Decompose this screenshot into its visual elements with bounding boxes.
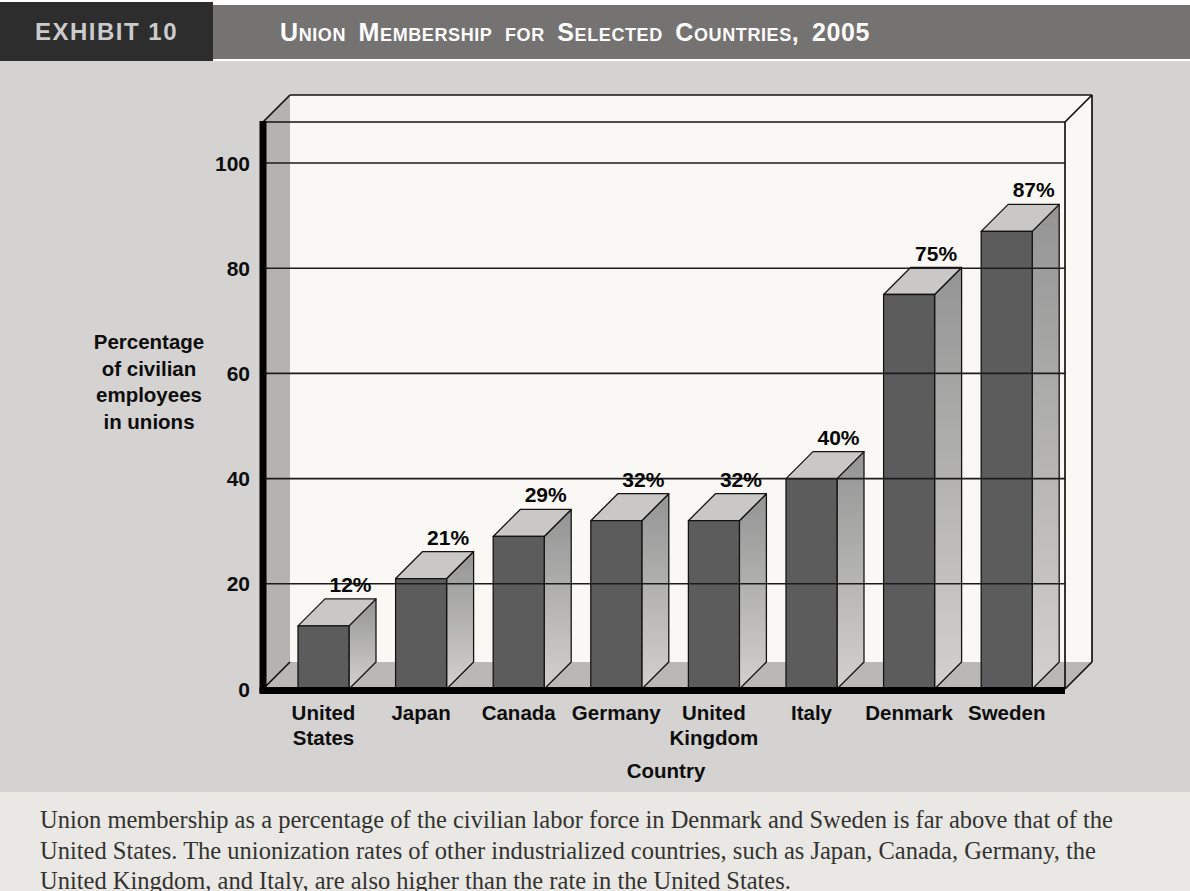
y-axis-title-line: employees [96, 383, 202, 406]
bar-value-label-sweden: 87% [1013, 178, 1055, 201]
x-axis-title: Country [627, 759, 706, 782]
bar-side-sweden [1032, 204, 1059, 689]
y-axis-title-line: in unions [103, 410, 194, 433]
y-tick-label-100: 100 [215, 152, 250, 175]
bar-value-label-japan: 21% [427, 526, 469, 549]
bar-chart-3d: 020406080100Percentageof civilianemploye… [0, 0, 1190, 891]
bar-front-japan [396, 579, 447, 689]
x-category-label-united-kingdom: United [682, 701, 746, 724]
bar-value-label-canada: 29% [525, 483, 567, 506]
x-category-label-sweden: Sweden [968, 701, 1045, 724]
plot-left-wall [263, 95, 290, 689]
plot-right-wall [1065, 95, 1092, 689]
bar-value-label-united-states: 12% [329, 573, 371, 596]
plot-top-face [263, 95, 1092, 122]
bar-value-label-italy: 40% [817, 426, 859, 449]
bar-side-canada [544, 509, 571, 689]
y-tick-label-20: 20 [227, 572, 250, 595]
bar-value-label-germany: 32% [622, 468, 664, 491]
bar-front-germany [591, 521, 642, 689]
x-category-label-denmark: Denmark [865, 701, 953, 724]
x-category-label-japan: Japan [391, 701, 450, 724]
caption-line: Union membership as a percentage of the … [40, 805, 1190, 836]
y-tick-label-60: 60 [227, 362, 250, 385]
bar-value-label-united-kingdom: 32% [720, 468, 762, 491]
bar-value-label-denmark: 75% [915, 242, 957, 265]
bar-side-italy [837, 452, 864, 689]
bar-front-canada [493, 536, 544, 689]
bar-front-denmark [884, 295, 935, 690]
x-category-label-canada: Canada [482, 701, 557, 724]
x-category-label-united-states: States [293, 726, 355, 749]
bar-front-united-states [298, 626, 349, 689]
bar-side-germany [642, 494, 669, 689]
caption-line: United States. The unionization rates of… [40, 836, 1190, 867]
x-category-label-united-kingdom: Kingdom [669, 726, 758, 749]
y-tick-label-40: 40 [227, 467, 250, 490]
caption-line: United Kingdom, and Italy, are also high… [40, 866, 1190, 891]
x-category-label-italy: Italy [791, 701, 833, 724]
x-category-label-united-states: United [292, 701, 356, 724]
y-axis-title-line: of civilian [102, 357, 197, 380]
y-tick-label-80: 80 [227, 257, 250, 280]
plot-floor [263, 662, 1092, 689]
bar-front-united-kingdom [688, 521, 739, 689]
x-category-label-germany: Germany [572, 701, 661, 724]
bar-front-sweden [981, 231, 1032, 689]
y-axis-title-line: Percentage [94, 330, 205, 353]
textbook-figure-page: Union Membership for Selected Countries,… [0, 0, 1190, 891]
bar-side-united-kingdom [739, 494, 766, 689]
y-tick-label-0: 0 [238, 678, 250, 701]
figure-caption: Union membership as a percentage of the … [0, 792, 1190, 891]
